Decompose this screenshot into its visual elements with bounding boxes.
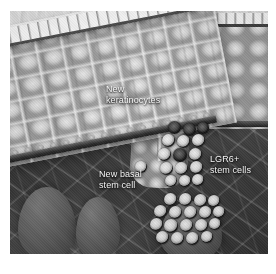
stem-cell [154, 205, 167, 218]
stem-cell [168, 121, 181, 134]
stem-cell [175, 162, 188, 175]
stem-cell [158, 148, 171, 161]
stem-cell [180, 219, 193, 232]
stem-cell [165, 175, 177, 187]
figure-container: New keratinocytes New basal stem cell LG… [0, 0, 276, 274]
stem-cell [173, 148, 187, 162]
stem-cell [201, 231, 213, 243]
stem-cell [184, 206, 197, 219]
stem-cell [189, 148, 202, 161]
stem-cell [177, 135, 190, 148]
stem-cell [169, 206, 182, 219]
stem-cell [156, 231, 169, 244]
stem-cell [192, 174, 204, 186]
stem-cell [179, 175, 191, 187]
stem-cell [199, 206, 212, 219]
stem-cell [135, 161, 147, 173]
stem-cell [209, 218, 221, 230]
stem-cell [197, 122, 209, 134]
stem-cell [186, 232, 199, 245]
stem-cell [162, 134, 175, 147]
stem-cell [171, 232, 184, 245]
stem-cell [192, 134, 205, 147]
stem-cell [164, 193, 177, 206]
skin-cross-section-illustration: New keratinocytes New basal stem cell LG… [10, 11, 268, 254]
stem-cell [179, 193, 192, 206]
stem-cell [150, 218, 163, 231]
stem-cell [160, 162, 173, 175]
lgr6-stem-cell-cluster-upper [158, 121, 214, 191]
stem-cell [164, 219, 178, 233]
stem-cell [190, 161, 203, 174]
new-basal-stem-cell-marker [135, 161, 149, 175]
stem-cell [213, 206, 225, 218]
lgr6-stem-cell-cluster-lower [150, 193, 228, 247]
